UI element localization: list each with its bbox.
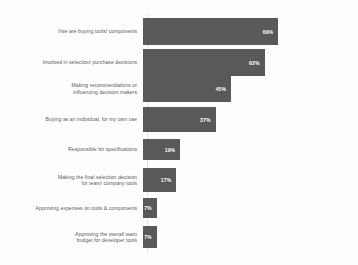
- bar-track: 62%: [142, 49, 358, 76]
- category-label: Making recommendations or influencing de…: [0, 82, 142, 95]
- bar-track: 7%: [142, 226, 358, 248]
- bar-value-label: 37%: [200, 117, 216, 123]
- bar-track: 7%: [142, 198, 358, 218]
- bar-value-label: 7%: [144, 205, 157, 211]
- bar: 45%: [143, 75, 231, 102]
- bar-track: 69%: [142, 18, 358, 45]
- bar-chart: I/we are buying tools/ components69%Invo…: [0, 0, 358, 265]
- category-label: Making the final selection decision for …: [0, 174, 142, 187]
- bar: 7%: [143, 226, 157, 248]
- bar-row: Approving expenses on tools & components…: [0, 198, 358, 218]
- bar-row: Buying as an individual, for my own use3…: [0, 107, 358, 132]
- bar-value-label: 7%: [144, 234, 157, 240]
- category-label: Buying as an individual, for my own use: [0, 116, 142, 122]
- category-label: Approving the overall team budget for de…: [0, 231, 142, 244]
- bar-track: 19%: [142, 139, 358, 160]
- bar: 19%: [143, 139, 180, 160]
- bar: 69%: [143, 18, 278, 45]
- bar-value-label: 62%: [249, 60, 265, 66]
- bar-row: Involved in selection/ purchase decision…: [0, 49, 358, 76]
- bar-track: 45%: [142, 75, 358, 102]
- category-label: Approving expenses on tools & components: [0, 205, 142, 211]
- bar-track: 37%: [142, 107, 358, 132]
- bar-row: Approving the overall team budget for de…: [0, 226, 358, 248]
- bar-track: 17%: [142, 168, 358, 192]
- bar: 62%: [143, 49, 265, 76]
- bar-row: Responsible for specifications19%: [0, 139, 358, 160]
- bar-row: I/we are buying tools/ components69%: [0, 18, 358, 45]
- bar-row: Making the final selection decision for …: [0, 168, 358, 192]
- bar: 17%: [143, 168, 176, 192]
- bar-value-label: 17%: [161, 177, 177, 183]
- bar: 37%: [143, 107, 216, 132]
- category-label: Involved in selection/ purchase decision…: [0, 59, 142, 65]
- category-label: Responsible for specifications: [0, 146, 142, 152]
- bar-value-label: 69%: [263, 29, 279, 35]
- bar-row: Making recommendations or influencing de…: [0, 75, 358, 102]
- bar-value-label: 19%: [165, 147, 181, 153]
- bar: 7%: [143, 198, 157, 218]
- bar-value-label: 45%: [216, 86, 232, 92]
- category-label: I/we are buying tools/ components: [0, 28, 142, 34]
- bar-rows-container: I/we are buying tools/ components69%Invo…: [0, 0, 358, 265]
